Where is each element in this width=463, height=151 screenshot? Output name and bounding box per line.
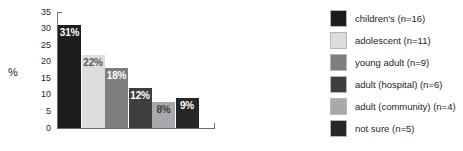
plot-area: % 05101520253035 31%22%18%12%8%9%	[0, 0, 230, 151]
bar: 8%	[152, 102, 175, 129]
legend-color-swatch	[330, 98, 347, 115]
legend-item-label: young adult (n=9)	[355, 57, 429, 68]
legend-item[interactable]: adult (community) (n=4)	[330, 98, 463, 120]
bar-value-label: 8%	[152, 104, 175, 115]
legend-item[interactable]: adolescent (n=11)	[330, 32, 463, 54]
bar-value-label: 22%	[82, 57, 105, 68]
bar-chart-figure: % 05101520253035 31%22%18%12%8%9% childr…	[0, 0, 463, 151]
legend-item[interactable]: not sure (n=5)	[330, 120, 463, 142]
legend-color-swatch	[330, 10, 347, 27]
bar: 31%	[58, 25, 81, 128]
bar-value-label: 9%	[176, 100, 199, 111]
chart-legend: children's (n=16)adolescent (n=11)young …	[330, 10, 463, 142]
bar-value-label: 18%	[105, 70, 128, 81]
legend-item[interactable]: young adult (n=9)	[330, 54, 463, 76]
bars-group: 31%22%18%12%8%9%	[0, 0, 230, 151]
legend-color-swatch	[330, 120, 347, 137]
legend-item-label: children's (n=16)	[355, 13, 425, 24]
legend-item-label: not sure (n=5)	[355, 123, 414, 134]
legend-item[interactable]: children's (n=16)	[330, 10, 463, 32]
bar-value-label: 31%	[58, 27, 81, 38]
bar: 18%	[105, 68, 128, 128]
bar: 9%	[176, 98, 199, 128]
legend-item-label: adult (community) (n=4)	[355, 101, 456, 112]
bar-value-label: 12%	[129, 90, 152, 101]
legend-color-swatch	[330, 54, 347, 71]
legend-color-swatch	[330, 32, 347, 49]
bar: 22%	[82, 55, 105, 128]
legend-item[interactable]: adult (hospital) (n=6)	[330, 76, 463, 98]
legend-color-swatch	[330, 76, 347, 93]
legend-item-label: adult (hospital) (n=6)	[355, 79, 442, 90]
bar: 12%	[129, 88, 152, 128]
legend-item-label: adolescent (n=11)	[355, 35, 431, 46]
